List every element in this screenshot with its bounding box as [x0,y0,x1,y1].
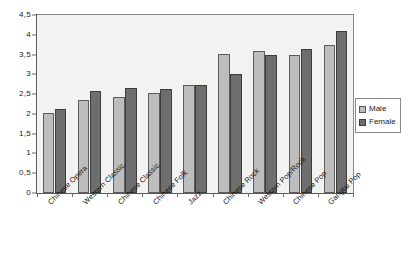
chart-legend: Male Female [355,98,401,133]
bar-female-6 [265,55,277,193]
x-axis-tick [213,193,214,197]
y-axis: 00,511,522,533,544,5 [0,0,36,279]
x-axis-tick [72,193,73,197]
bar-female-8 [336,31,348,193]
x-axis-tick [37,193,38,197]
x-axis-tick [353,193,354,197]
legend-swatch-female-icon [359,119,366,126]
bar-female-2 [125,88,137,193]
bar-female-1 [90,91,102,193]
legend-swatch-male-icon [359,106,366,113]
y-axis-tick-label: 4,5 [19,11,31,19]
y-axis-tick-label: 2 [26,110,31,118]
legend-item-female[interactable]: Female [359,116,396,128]
legend-label-male: Male [369,105,386,113]
bar-female-7 [301,49,313,193]
x-axis-tick [248,193,249,197]
y-axis-tick-label: 4 [26,31,31,39]
bar-chart: 00,511,522,533,544,5 Chinese OperaWester… [0,0,413,279]
legend-item-male[interactable]: Male [359,103,396,115]
y-axis-tick-label: 0 [26,189,31,197]
y-axis-tick-label: 1,5 [19,130,31,138]
y-axis-tick-label: 0,5 [19,169,31,177]
y-axis-tick-label: 1 [26,149,31,157]
y-axis-tick-label: 3 [26,70,31,78]
bar-female-5 [230,74,242,193]
bar-male-0 [43,113,55,193]
x-axis-tick [107,193,108,197]
bar-male-5 [218,54,230,193]
x-axis-tick [318,193,319,197]
bar-male-8 [324,45,336,193]
x-axis-tick [283,193,284,197]
bar-female-4 [195,85,207,193]
legend-label-female: Female [369,118,396,126]
bar-female-3 [160,89,172,193]
x-axis-tick [177,193,178,197]
y-axis-tick-label: 2,5 [19,90,31,98]
x-axis-tick [142,193,143,197]
y-axis-tick-label: 3,5 [19,51,31,59]
